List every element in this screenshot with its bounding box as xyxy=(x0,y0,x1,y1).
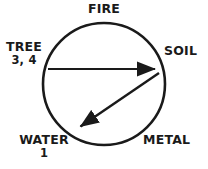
node-label-metal: METAL xyxy=(143,133,190,146)
node-label-tree: TREE 3, 4 xyxy=(2,40,46,66)
node-tree-text: TREE xyxy=(6,39,42,54)
node-label-water: WATER 1 xyxy=(10,133,78,159)
node-tree-number: 3, 4 xyxy=(2,54,46,66)
node-water-text: WATER xyxy=(19,132,69,147)
node-soil-text: SOIL xyxy=(164,43,197,58)
node-metal-text: METAL xyxy=(143,132,190,147)
node-label-soil: SOIL xyxy=(164,44,197,57)
wuxing-diagram: FIRE SOIL METAL WATER 1 TREE 3, 4 xyxy=(0,0,208,169)
node-label-fire: FIRE xyxy=(0,2,208,15)
node-water-number: 1 xyxy=(10,147,78,159)
node-fire-text: FIRE xyxy=(88,1,120,16)
arrow-soil-to-water xyxy=(81,73,160,127)
cycle-circle xyxy=(43,23,165,145)
